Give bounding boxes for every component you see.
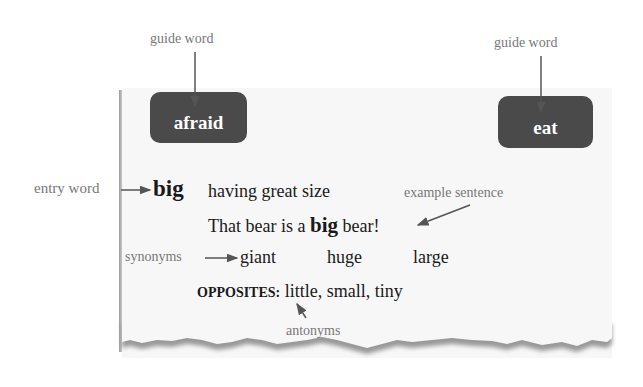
antonyms-arrow <box>297 304 306 318</box>
callout-arrows <box>0 0 643 387</box>
example-arrow <box>418 205 470 225</box>
